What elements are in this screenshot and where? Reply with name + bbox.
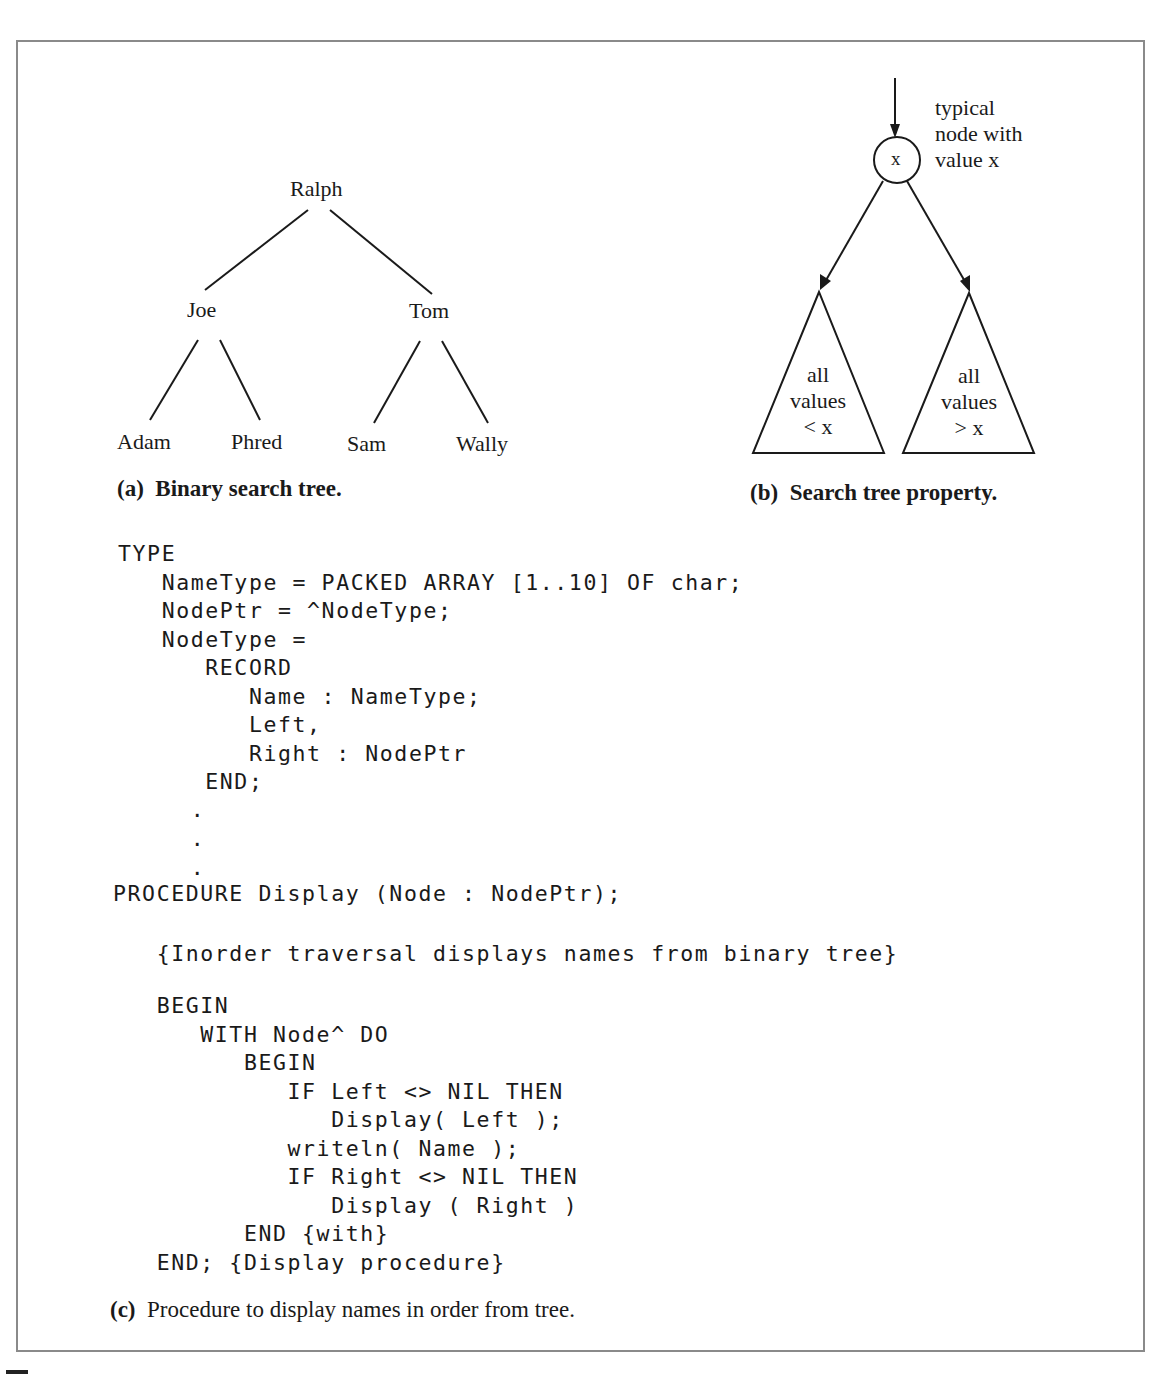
code-line: NodePtr = ^NodeType;	[118, 597, 743, 626]
ellipsis-dots: . . .	[118, 795, 205, 882]
code-line: WITH Node^ DO	[113, 1021, 578, 1050]
code-line: BEGIN	[113, 1049, 578, 1078]
annotation-line: typical	[935, 95, 1022, 121]
caption-c-text: Procedure to display names in order from…	[147, 1297, 575, 1322]
subtree-line: all	[778, 362, 858, 388]
code-line: Display ( Right )	[113, 1192, 578, 1221]
code-line: .	[118, 824, 205, 853]
left-subtree-label: all values < x	[778, 362, 858, 440]
caption-b-tag: (b)	[750, 480, 778, 505]
subtree-line: values	[778, 388, 858, 414]
node-annotation: typical node with value x	[935, 95, 1022, 173]
caption-c-tag: (c)	[110, 1297, 136, 1322]
annotation-line: node with	[935, 121, 1022, 147]
tree-node-root: Ralph	[290, 176, 343, 202]
code-line: Display( Left );	[113, 1106, 578, 1135]
code-line: END; {Display procedure}	[113, 1249, 578, 1278]
procedure-header: PROCEDURE Display (Node : NodePtr);	[113, 880, 622, 909]
caption-a-text: Binary search tree.	[155, 476, 341, 501]
code-line: NameType = PACKED ARRAY [1..10] OF char;	[118, 569, 743, 598]
tree-node-right-right: Wally	[456, 431, 508, 457]
node-value-x: x	[891, 148, 901, 170]
code-line: Right : NodePtr	[118, 740, 743, 769]
tree-node-left-left: Adam	[117, 429, 171, 455]
subtree-line: < x	[778, 414, 858, 440]
caption-c: (c) Procedure to display names in order …	[110, 1297, 575, 1323]
code-line: END {with}	[113, 1220, 578, 1249]
tree-node-right: Tom	[409, 298, 449, 324]
code-line: RECORD	[118, 654, 743, 683]
tree-node-right-left: Sam	[347, 431, 386, 457]
subtree-line: > x	[929, 415, 1009, 441]
pascal-code-block-type: TYPE NameType = PACKED ARRAY [1..10] OF …	[118, 540, 743, 797]
caption-a-tag: (a)	[117, 476, 144, 501]
subtree-line: values	[929, 389, 1009, 415]
tree-node-left-right: Phred	[231, 429, 282, 455]
page-corner-mark	[6, 1370, 28, 1374]
binary-tree-edges	[0, 0, 1164, 520]
code-line: END;	[118, 768, 743, 797]
code-line: IF Left <> NIL THEN	[113, 1078, 578, 1107]
code-line: Name : NameType;	[118, 683, 743, 712]
code-line: NodeType =	[118, 626, 743, 655]
code-line: Left,	[118, 711, 743, 740]
pascal-code-block-body: BEGIN WITH Node^ DO BEGIN IF Left <> NIL…	[113, 992, 578, 1277]
tree-node-left: Joe	[187, 297, 216, 323]
code-line: TYPE	[118, 540, 743, 569]
caption-a: (a) Binary search tree.	[117, 476, 342, 502]
caption-b: (b) Search tree property.	[750, 480, 997, 506]
code-line: .	[118, 795, 205, 824]
procedure-comment: {Inorder traversal displays names from b…	[113, 940, 898, 969]
right-subtree-label: all values > x	[929, 363, 1009, 441]
code-line: IF Right <> NIL THEN	[113, 1163, 578, 1192]
code-line: BEGIN	[113, 992, 578, 1021]
subtree-line: all	[929, 363, 1009, 389]
code-line: .	[118, 853, 205, 882]
code-line: writeln( Name );	[113, 1135, 578, 1164]
annotation-line: value x	[935, 147, 1022, 173]
caption-b-text: Search tree property.	[790, 480, 998, 505]
